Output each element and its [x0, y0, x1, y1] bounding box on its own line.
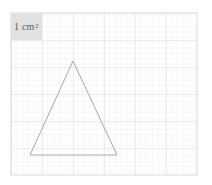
unit-area-label: 1 cm2 — [11, 13, 42, 40]
unit-label-text: 1 cm — [14, 22, 35, 32]
unit-label-exponent: 2 — [35, 23, 39, 30]
grid-figure: 1 cm2 — [0, 0, 212, 185]
